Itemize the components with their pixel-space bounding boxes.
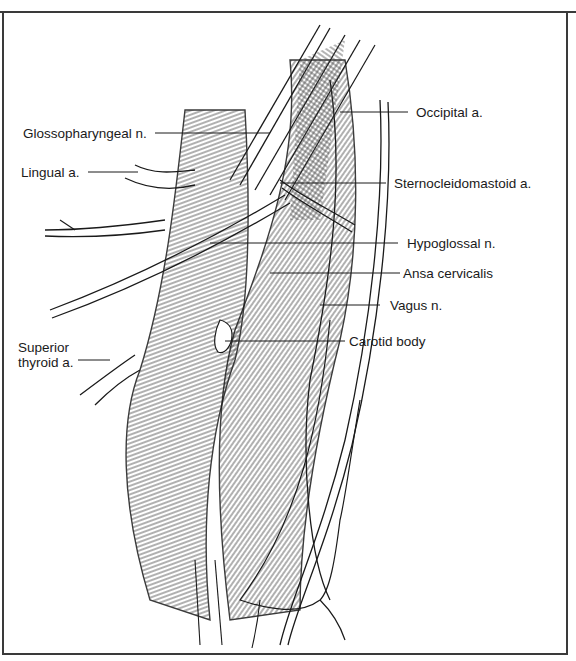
anatomical-illustration (0, 0, 576, 661)
label-occipital-artery: Occipital a. (416, 105, 483, 120)
label-sternocleidomastoid-artery: Sternocleidomastoid a. (394, 176, 531, 191)
label-ansa-cervicalis: Ansa cervicalis (403, 266, 493, 281)
label-lingual-artery: Lingual a. (21, 165, 80, 180)
facial-branch (45, 220, 165, 237)
label-vagus-nerve: Vagus n. (390, 298, 442, 313)
label-hypoglossal-nerve: Hypoglossal n. (407, 236, 496, 251)
label-superior-thyroid-artery: Superior thyroid a. (18, 340, 74, 370)
label-glossopharyngeal-nerve: Glossopharyngeal n. (23, 126, 147, 141)
label-carotid-body: Carotid body (349, 334, 426, 349)
